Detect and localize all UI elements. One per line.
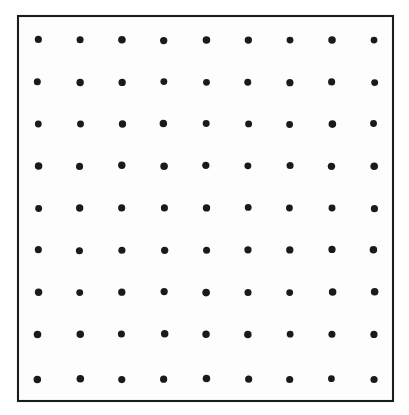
grid-dot xyxy=(370,120,377,127)
grid-dot xyxy=(119,120,126,127)
grid-dot xyxy=(203,247,210,254)
grid-dot xyxy=(35,36,42,43)
grid-dot xyxy=(328,163,335,170)
grid-dot xyxy=(160,78,167,85)
grid-dot xyxy=(328,78,335,85)
grid-dot xyxy=(202,289,210,297)
grid-dot xyxy=(245,204,252,211)
grid-dot xyxy=(287,162,294,169)
grid-dot xyxy=(35,121,42,128)
grid-dot xyxy=(34,376,41,383)
grid-dot xyxy=(371,79,378,86)
grid-dot xyxy=(286,246,293,253)
grid-dot xyxy=(286,79,293,86)
grid-dot xyxy=(160,162,168,170)
grid-dot xyxy=(76,163,83,170)
grid-dot xyxy=(118,289,125,296)
grid-dot xyxy=(286,205,293,212)
grid-dot xyxy=(34,78,41,85)
grid-dot xyxy=(118,204,125,211)
grid-dot xyxy=(34,331,42,339)
grid-dot xyxy=(118,162,125,169)
grid-dot xyxy=(370,163,378,171)
grid-dot xyxy=(35,162,42,169)
grid-dot xyxy=(202,331,209,338)
grid-dot xyxy=(286,121,293,128)
grid-dot xyxy=(160,120,167,127)
grid-dot xyxy=(161,204,168,211)
grid-dot xyxy=(244,289,251,296)
grid-dot xyxy=(329,205,336,212)
grid-dot xyxy=(77,121,84,128)
grid-dot xyxy=(160,376,167,383)
grid-dot xyxy=(370,331,377,338)
dot-grid-canvas xyxy=(0,0,409,415)
grid-dot xyxy=(371,205,378,212)
grid-dot xyxy=(161,247,168,254)
grid-dot xyxy=(245,376,252,383)
grid-dot xyxy=(371,288,379,296)
grid-dot xyxy=(287,37,294,44)
grid-dot xyxy=(203,120,210,127)
grid-dot xyxy=(328,375,335,382)
grid-dot xyxy=(118,330,125,337)
grid-dot xyxy=(328,331,335,338)
grid-dot xyxy=(77,331,84,338)
grid-dot xyxy=(35,289,42,296)
grid-dot xyxy=(203,204,210,211)
grid-dot xyxy=(76,247,83,254)
grid-dot xyxy=(328,36,336,44)
grid-dot xyxy=(118,36,126,44)
grid-dot xyxy=(161,330,169,338)
grid-dot xyxy=(244,79,251,86)
grid-dot xyxy=(118,247,125,254)
grid-dot xyxy=(203,79,210,86)
grid-dot xyxy=(371,37,378,44)
grid-dot xyxy=(244,331,251,338)
grid-dot xyxy=(35,205,42,212)
grid-dot xyxy=(287,331,294,338)
grid-dot xyxy=(203,375,210,382)
grid-dot xyxy=(76,289,83,296)
grid-dot xyxy=(35,246,42,253)
grid-dot xyxy=(245,36,252,43)
grid-dot xyxy=(76,79,83,86)
grid-dot xyxy=(77,375,85,383)
grid-dot xyxy=(119,79,126,86)
grid-dot xyxy=(118,376,125,383)
grid-dot xyxy=(244,162,251,169)
grid-dot xyxy=(370,246,378,254)
dot-grid-figure xyxy=(0,0,409,415)
grid-dot xyxy=(244,246,251,253)
grid-dot xyxy=(77,36,84,43)
grid-dot xyxy=(329,288,337,296)
grid-dot xyxy=(203,36,211,44)
grid-dot xyxy=(328,246,335,253)
grid-dot xyxy=(286,289,293,296)
grid-dot xyxy=(202,162,209,169)
grid-dot xyxy=(160,37,167,44)
grid-dot xyxy=(370,376,377,383)
grid-dot xyxy=(245,120,252,127)
grid-dot xyxy=(76,204,83,211)
grid-dot xyxy=(329,120,337,128)
grid-dot xyxy=(161,288,168,295)
grid-dot xyxy=(286,376,293,383)
